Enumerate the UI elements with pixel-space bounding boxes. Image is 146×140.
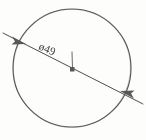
center-mark [70,52,75,72]
engineering-sketch-canvas: ø49 [0,0,146,140]
arrowhead-upper-left [12,37,27,45]
diameter-dimension-label-group: ø49 [37,40,58,58]
arrowhead-lower-right [120,91,135,99]
sketch-svg: ø49 [0,0,146,140]
diameter-dimension-label: ø49 [37,40,58,58]
